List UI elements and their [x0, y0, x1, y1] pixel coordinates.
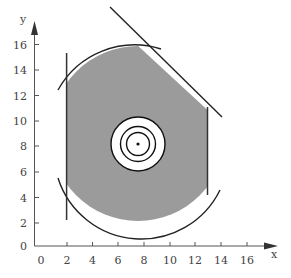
- y-tick-labels: 0 2 4 6 8 10 12 14 16: [13, 39, 27, 254]
- diagram-canvas: 0 2 4 6 8 10 12 14 16 x 0 2 4 6 8 10 12 …: [0, 0, 291, 278]
- x-tick-label: 12: [188, 254, 202, 267]
- x-tick-label: 4: [89, 254, 96, 267]
- x-tick-label: 16: [240, 254, 254, 267]
- y-ticks: [35, 45, 40, 224]
- x-tick-label: 14: [214, 254, 228, 267]
- x-ticks: [67, 242, 247, 246]
- y-tick-label: 12: [13, 90, 27, 103]
- y-tick-label: 8: [20, 140, 27, 153]
- y-tick-label: 2: [20, 217, 27, 230]
- x-tick-label: 10: [163, 254, 177, 267]
- y-tick-label: 16: [13, 39, 27, 52]
- x-tick-label: 2: [64, 254, 71, 267]
- y-tick-label: 14: [13, 64, 27, 77]
- y-tick-label: 6: [20, 166, 27, 179]
- x-tick-label: 6: [115, 254, 122, 267]
- x-axis-label: x: [271, 248, 278, 261]
- y-tick-label: 0: [20, 240, 27, 253]
- x-tick-labels: 0 2 4 6 8 10 12 14 16: [38, 254, 255, 267]
- y-axis-arrow-icon: [31, 21, 38, 35]
- y-axis-label: y: [19, 13, 27, 26]
- y-tick-label: 10: [13, 115, 27, 128]
- y-tick-label: 4: [20, 192, 27, 205]
- x-tick-label: 8: [141, 254, 148, 267]
- x-tick-label: 0: [38, 254, 45, 267]
- target-icon: [111, 117, 165, 171]
